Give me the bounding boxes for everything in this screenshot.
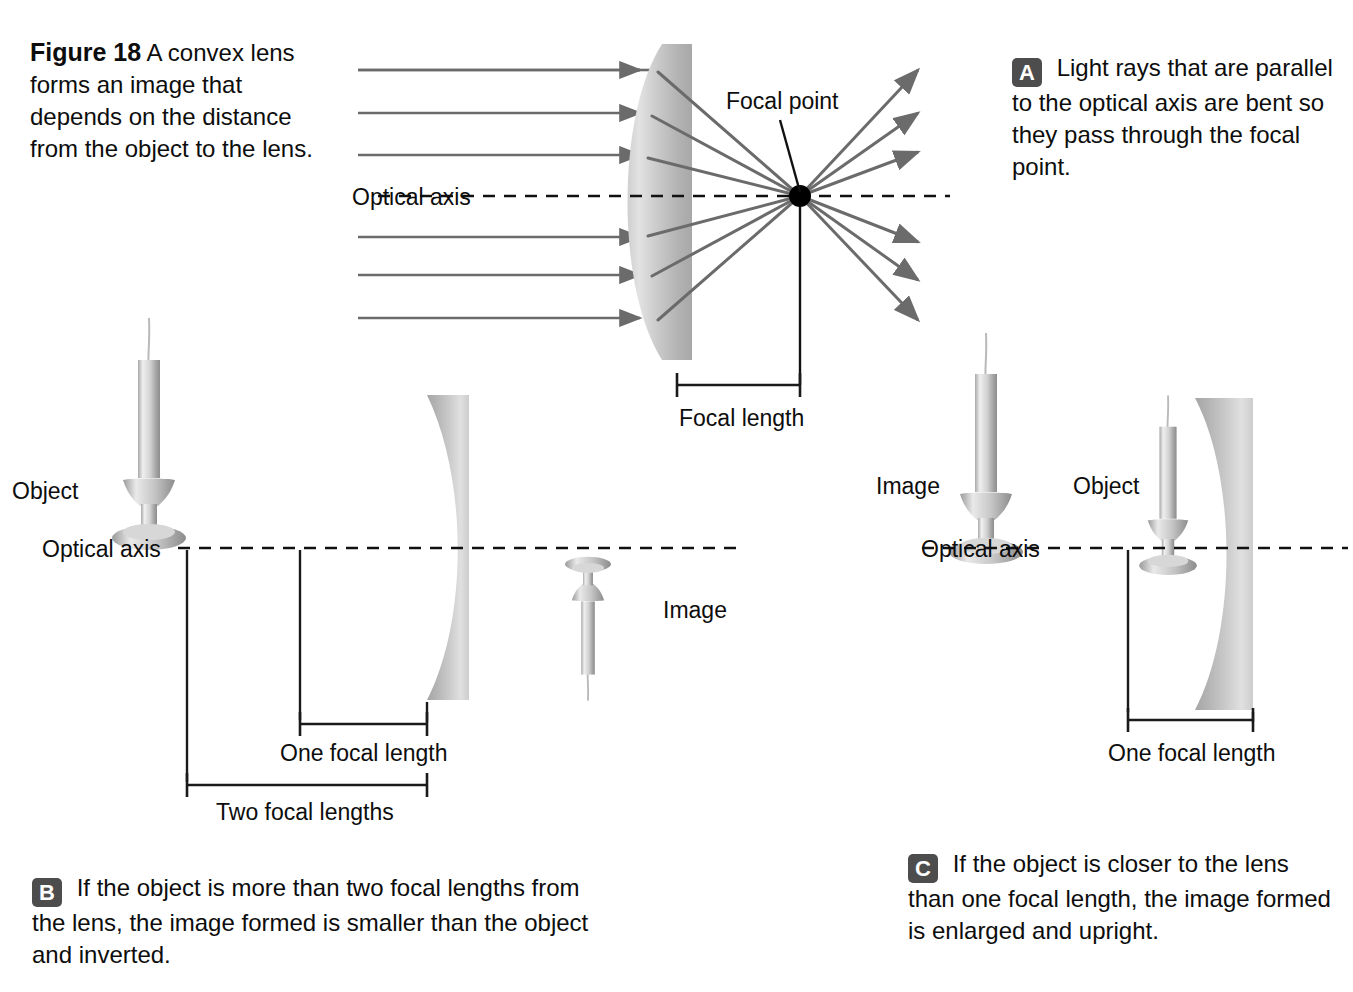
image-candle-wick-c: [985, 333, 986, 376]
panel-b-badge: B: [32, 878, 62, 907]
diverging-ray-2: [800, 113, 918, 196]
diverging-ray-6: [800, 196, 918, 320]
image-candle-wick-b: [588, 673, 589, 700]
object-candle-body-b: [138, 360, 160, 478]
figure-number: Figure 18: [30, 38, 141, 66]
object-candle-c: [1139, 396, 1197, 575]
panel-a-text: Light rays that are parallel to the opti…: [1012, 54, 1333, 180]
image-candle-cup-b: [572, 584, 604, 601]
one-focal-length-label-b: One focal length: [280, 740, 448, 767]
object-candle-foot-top-c: [1148, 555, 1189, 567]
figure-caption: Figure 18 A convex lens forms an image t…: [30, 36, 330, 165]
two-focal-lengths-bracket-b: [187, 773, 427, 797]
diverging-ray-3: [800, 152, 918, 196]
convex-lens-c: [1195, 398, 1253, 710]
panel-c-badge: C: [908, 854, 938, 883]
image-label-c: Image: [876, 473, 940, 500]
panel-b-diagram: [100, 300, 800, 820]
optical-axis-label-a: Optical axis: [352, 184, 471, 211]
one-focal-length-label-c: One focal length: [1108, 740, 1276, 767]
object-candle-wick-b: [148, 318, 149, 362]
one-focal-length-bracket-b: [300, 712, 427, 736]
panel-a-badge: A: [1012, 58, 1042, 87]
panel-c-text: If the object is closer to the lens than…: [908, 850, 1331, 944]
focal-point-label: Focal point: [726, 88, 839, 115]
object-candle-wick-c: [1168, 396, 1169, 429]
panel-b-text: If the object is more than two focal len…: [32, 874, 588, 968]
object-candle-body-c: [1159, 427, 1176, 519]
object-label-c: Object: [1073, 473, 1139, 500]
panel-c-description: C If the object is closer to the lens th…: [908, 848, 1338, 947]
image-candle-foot-top-b: [572, 563, 604, 573]
optical-axis-label-b: Optical axis: [42, 536, 161, 563]
diverging-ray-4: [800, 196, 918, 242]
panel-b-description: B If the object is more than two focal l…: [32, 872, 602, 971]
object-candle-cup-c: [1148, 519, 1189, 540]
image-candle-body-c: [975, 374, 997, 492]
image-candle-b: [565, 557, 611, 701]
one-focal-length-bracket-c: [1128, 708, 1253, 732]
optical-axis-label-c: Optical axis: [921, 536, 1040, 563]
image-label-b: Image: [663, 597, 727, 624]
image-candle-c: [949, 333, 1023, 564]
image-candle-cup-c: [960, 493, 1012, 521]
object-candle-cup-b: [123, 479, 175, 507]
diverging-ray-5: [800, 196, 918, 280]
object-candle-b: [112, 318, 186, 550]
two-focal-lengths-label-b: Two focal lengths: [216, 799, 394, 826]
object-label-b: Object: [12, 478, 78, 505]
panel-a-description: A Light rays that are parallel to the op…: [1012, 52, 1342, 183]
image-candle-body-b: [581, 601, 595, 674]
